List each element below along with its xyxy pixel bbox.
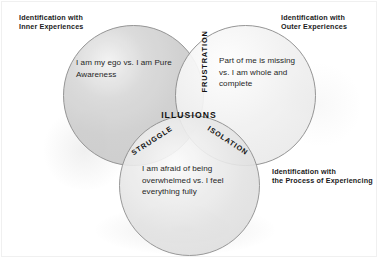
circle-text-outer-experiences: Part of me is missing vs. I am whole and… bbox=[219, 55, 297, 90]
venn-stage: Identification with Inner Experiences Id… bbox=[0, 0, 379, 259]
corner-label-inner-line2: Inner Experiences bbox=[19, 22, 83, 31]
corner-label-inner-line1: Identification with bbox=[19, 13, 83, 22]
circle-text-process-of-experiencing: I am afraid of being overwhelmed vs. I f… bbox=[142, 163, 254, 198]
corner-label-inner-experiences: Identification with Inner Experiences bbox=[19, 13, 83, 32]
corner-label-outer-line1: Identification with bbox=[281, 13, 347, 22]
corner-label-outer-experiences: Identification with Outer Experiences bbox=[281, 13, 347, 32]
intersection-label-illusions: ILLUSIONS bbox=[141, 110, 237, 120]
circle-text-inner-experiences: I am my ego vs. I am Pure Awareness bbox=[76, 57, 184, 80]
corner-label-process-line1: Identification with bbox=[272, 167, 373, 176]
corner-label-process-of-experiencing: Identification with the Process of Exper… bbox=[272, 167, 373, 186]
corner-label-outer-line2: Outer Experiences bbox=[281, 22, 347, 31]
venn-diagram-page: Identification with Inner Experiences Id… bbox=[0, 0, 379, 259]
intersection-label-frustration: FRUSTRATION bbox=[200, 33, 209, 93]
corner-label-process-line2: the Process of Experiencing bbox=[272, 176, 373, 185]
